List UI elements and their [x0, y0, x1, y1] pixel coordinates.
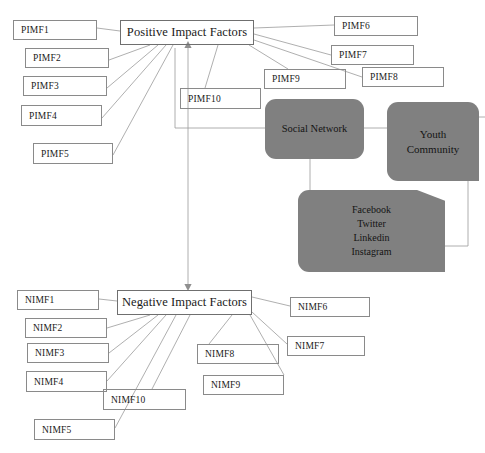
platform-twitter: Twitter	[357, 218, 386, 229]
edge-nimf2	[107, 315, 150, 328]
node-pimf7-label: PIMF7	[339, 50, 367, 60]
edge-pimf10	[205, 45, 218, 88]
edge-nimf5	[115, 315, 176, 428]
node-nimf3[interactable]: NIMF3	[27, 343, 109, 363]
entity-youth-community[interactable]: Youth Community Youth Community	[387, 102, 479, 181]
node-pimf1-label: PIMF1	[21, 25, 49, 35]
edge-nimf4	[107, 315, 166, 381]
edge-pimf6	[254, 25, 334, 28]
node-nimf2-label: NIMF2	[33, 323, 63, 333]
edge-nimf7	[252, 312, 287, 344]
node-nimf7-label: NIMF7	[295, 341, 325, 351]
edge-nimf6	[252, 297, 290, 306]
hub-negative-label: Negative Impact Factors	[122, 295, 247, 310]
edge-pimf3	[107, 45, 158, 88]
edge-nimf8	[209, 315, 232, 344]
node-pimf10[interactable]: PIMF10	[180, 88, 261, 109]
node-nimf1[interactable]: NIMF1	[17, 290, 99, 310]
node-pimf6[interactable]: PIMF6	[334, 16, 418, 36]
node-nimf9[interactable]: NIMF9	[203, 375, 284, 395]
node-pimf7[interactable]: PIMF7	[331, 45, 414, 65]
hub-positive-label: Positive Impact Factors	[127, 25, 247, 40]
diagram-canvas: Positive Impact Factors Negative Impact …	[0, 0, 485, 453]
node-pimf4[interactable]: PIMF4	[21, 105, 102, 126]
platform-linkedin: Linkedin	[353, 232, 389, 243]
node-nimf4[interactable]: NIMF4	[26, 371, 107, 392]
entity-platform-list-label: Facebook Twitter Linkedin Instagram	[298, 203, 445, 260]
node-nimf1-label: NIMF1	[25, 295, 55, 305]
edge-pimf5	[113, 45, 173, 155]
node-pimf4-label: PIMF4	[29, 111, 57, 121]
node-nimf8-label: NIMF8	[205, 349, 235, 359]
node-nimf10[interactable]: NIMF10	[103, 389, 186, 410]
node-nimf6-label: NIMF6	[298, 302, 328, 312]
node-pimf5-label: PIMF5	[41, 149, 69, 159]
platform-facebook: Facebook	[352, 204, 391, 215]
edge-nimf3	[109, 315, 158, 353]
hub-positive-impact-factors[interactable]: Positive Impact Factors	[120, 20, 254, 45]
edge-pimf1	[97, 28, 120, 31]
node-nimf5[interactable]: NIMF5	[34, 419, 115, 440]
node-pimf10-label: PIMF10	[188, 94, 221, 104]
node-nimf6[interactable]: NIMF6	[290, 297, 370, 317]
edge-pimf9	[249, 45, 288, 69]
node-nimf2[interactable]: NIMF2	[25, 318, 107, 338]
node-pimf3-label: PIMF3	[31, 81, 59, 91]
edge-pimf4	[102, 45, 166, 118]
edge-pimf2	[109, 45, 150, 60]
edge-youth-community-to-platform-list	[445, 181, 468, 246]
node-nimf3-label: NIMF3	[35, 348, 65, 358]
entity-social-network-label: Social Network	[265, 122, 364, 136]
node-nimf4-label: NIMF4	[34, 377, 64, 387]
edge-pimf7	[254, 34, 331, 55]
entity-social-network[interactable]: Social Network	[265, 99, 364, 159]
youth-word-1: Youth	[420, 128, 446, 140]
node-nimf10-label: NIMF10	[111, 395, 145, 405]
node-pimf6-label: PIMF6	[342, 21, 370, 31]
youth-word-2: Community	[407, 143, 460, 155]
platform-instagram: Instagram	[352, 246, 392, 257]
node-pimf5[interactable]: PIMF5	[33, 143, 113, 164]
node-nimf5-label: NIMF5	[42, 425, 72, 435]
node-pimf2-label: PIMF2	[33, 53, 61, 63]
edge-nimf10	[152, 315, 190, 389]
edge-nimf1	[99, 299, 117, 301]
node-pimf3[interactable]: PIMF3	[23, 76, 107, 96]
node-pimf9[interactable]: PIMF9	[264, 69, 346, 89]
node-pimf2[interactable]: PIMF2	[25, 48, 109, 68]
node-pimf9-label: PIMF9	[272, 74, 300, 84]
node-pimf8-label: PIMF8	[370, 72, 398, 82]
node-pimf1[interactable]: PIMF1	[13, 20, 97, 40]
node-pimf8[interactable]: PIMF8	[362, 67, 444, 87]
node-nimf9-label: NIMF9	[211, 380, 241, 390]
entity-youth-community-label: Youth Community Youth Community	[387, 127, 479, 157]
node-nimf8[interactable]: NIMF8	[197, 344, 279, 364]
node-nimf7[interactable]: NIMF7	[287, 336, 365, 356]
entity-platform-list[interactable]: Facebook Twitter Linkedin Instagram	[298, 190, 445, 272]
hub-negative-impact-factors[interactable]: Negative Impact Factors	[117, 290, 252, 315]
